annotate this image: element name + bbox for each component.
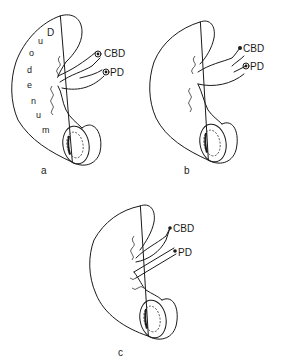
duodenum-outline-a (12, 15, 101, 165)
duodenum-outline-b (150, 21, 238, 163)
label-pd-c: PD (178, 247, 192, 258)
wavy-lower-a (51, 86, 54, 115)
lumen-ellipse-a (60, 124, 92, 166)
wavy-upper-b (192, 56, 196, 74)
label-cbd-c: CBD (173, 223, 194, 234)
wavy-lower-b (189, 88, 192, 112)
label-pd-b: PD (250, 61, 264, 72)
wavy-upper-c (131, 236, 135, 260)
duodenum-duct-diagram: CBD PD D u o d e n u m a CBD PD b (0, 0, 283, 362)
panel-b: CBD PD b (150, 21, 264, 176)
caption-b: b (184, 165, 190, 176)
caption-a: a (41, 165, 47, 176)
cbd-opening-c (168, 226, 172, 230)
duodenum-outline-c (90, 205, 178, 339)
letter-e: e (27, 80, 32, 90)
pd-duct-c-bottom (136, 254, 176, 278)
pd-opening-c (173, 249, 177, 253)
label-cbd-a: CBD (104, 48, 125, 59)
letter-d: d (27, 65, 32, 75)
pd-duct-a-upper (80, 70, 102, 78)
label-pd-a: PD (110, 67, 124, 78)
letter-D: D (47, 27, 54, 38)
letter-o: o (29, 48, 34, 58)
common-channel-b-bottom (198, 74, 244, 86)
letter-u1: u (38, 36, 43, 46)
letter-n: n (31, 96, 36, 106)
caption-c: c (118, 347, 123, 358)
pd-duct-c-top (134, 248, 174, 272)
lumen-ellipse-b (197, 122, 229, 164)
panel-c: CBD PD c (90, 205, 194, 358)
panel-a: CBD PD D u o d e n u m a (12, 15, 125, 176)
label-cbd-b: CBD (243, 43, 264, 54)
cbd-opening-b (238, 46, 242, 50)
common-channel-b-top (198, 48, 240, 72)
letter-m: m (42, 125, 50, 135)
pd-duct-a (62, 76, 104, 89)
letter-u2: u (36, 110, 41, 120)
